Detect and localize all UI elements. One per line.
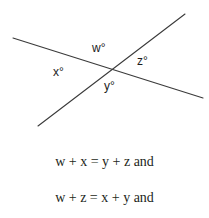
angle-label-z: z° [137, 55, 148, 67]
angle-label-y: y° [104, 80, 115, 92]
angle-label-x: x° [53, 66, 64, 78]
angle-diagram: w° x° z° y° [0, 0, 209, 140]
equation-line-1: w + x = y + z and [0, 155, 209, 169]
intersecting-lines-graphic [0, 0, 209, 140]
angle-label-w: w° [92, 42, 106, 54]
equation-line-2: w + z = x + y and [0, 191, 209, 205]
figure-root: w° x° z° y° w + x = y + z and w + z = x … [0, 0, 209, 218]
equations-block: w + x = y + z and w + z = x + y and [0, 140, 209, 218]
